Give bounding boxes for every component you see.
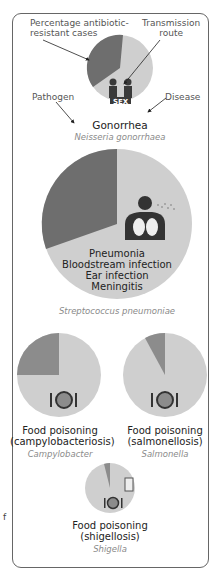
pathogen-streptococcus: Streptococcus pneumoniae	[42, 306, 192, 316]
disease-gonorrhea: Gonorrhea	[60, 120, 180, 131]
disease-shigellosis: Food poisoning (shigellosis)	[60, 520, 160, 542]
disease-salmonellosis: Food poisoning (salmonellosis)	[115, 425, 215, 447]
disease-line2: (campylobacteriosis)	[10, 436, 110, 447]
disease-campylobacteriosis: Food poisoning (campylobacteriosis)	[10, 425, 110, 447]
svg-text:SEX: SEX	[113, 98, 129, 106]
pathogen-campylobacter: Campylobacter	[10, 449, 110, 459]
pie-campylobacter	[17, 333, 101, 417]
pathogen-shigella: Shigella	[60, 544, 160, 554]
pathogen-salmonella: Salmonella	[115, 449, 215, 459]
disease-line1: Food poisoning	[60, 520, 160, 531]
pie-shigella	[85, 463, 135, 513]
pie-salmonella	[123, 333, 207, 417]
disease-line2: (shigellosis)	[60, 531, 160, 542]
disease-list-strep: Pneumonia Bloodstream infection Ear infe…	[42, 248, 192, 292]
pie-gonorrhea: SEX	[87, 35, 153, 106]
disease-bloodstream: Bloodstream infection	[42, 259, 192, 270]
disease-line2: (salmonellosis)	[115, 436, 215, 447]
disease-line1: Food poisoning	[115, 425, 215, 436]
disease-pneumonia: Pneumonia	[42, 248, 192, 259]
disease-meningitis: Meningitis	[42, 281, 192, 292]
disease-ear: Ear infection	[42, 270, 192, 281]
disease-line1: Food poisoning	[10, 425, 110, 436]
pathogen-neisseria: Neisseria gonorrhaea	[55, 132, 185, 142]
